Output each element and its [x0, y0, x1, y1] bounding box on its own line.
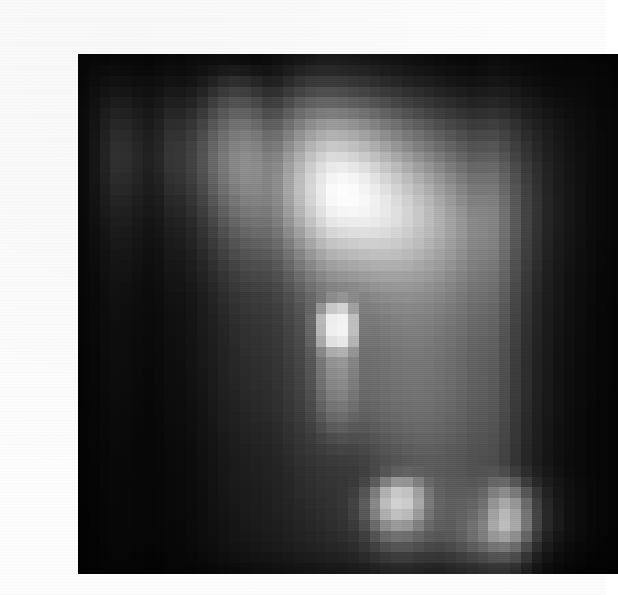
medical-scan-figure: [78, 54, 618, 574]
figure-caption: Low-resolution grayscale cross-sectional…: [0, 0, 1, 1]
scan-image-canvas: [78, 54, 618, 574]
